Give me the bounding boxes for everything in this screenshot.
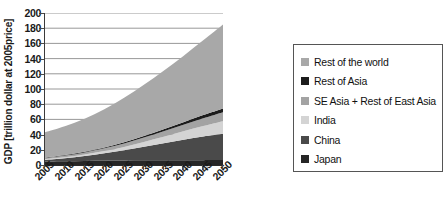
y-axis-tick-mark — [39, 119, 44, 120]
y-axis-tick-mark — [39, 104, 44, 105]
chart-legend: Rest of the worldRest of AsiaSE Asia + R… — [293, 44, 443, 172]
legend-item[interactable]: Rest of the world — [301, 52, 442, 72]
legend-swatch-icon — [301, 77, 309, 85]
stacked-area-chart: GDP [trillion dollar at 2005price] 02040… — [0, 0, 232, 216]
legend-item-label: Rest of the world — [314, 56, 389, 68]
plot-svg — [45, 13, 223, 165]
legend-swatch-icon — [301, 136, 309, 144]
x-axis-tick-mark — [202, 165, 203, 170]
legend-item[interactable]: Japan — [301, 150, 442, 170]
legend-item-label: Rest of Asia — [314, 75, 367, 87]
chart-screenshot: GDP [trillion dollar at 2005price] 02040… — [0, 0, 448, 216]
x-axis-tick-labels: 2005201020152020202520302035204020452050 — [0, 170, 232, 216]
x-axis-tick-mark — [143, 165, 144, 170]
x-axis-tick-mark — [182, 165, 183, 170]
y-axis-tick-mark — [39, 89, 44, 90]
x-axis-tick-mark — [163, 165, 164, 170]
legend-item-label: SE Asia + Rest of East Asia — [314, 95, 436, 107]
y-axis-tick-mark — [39, 59, 44, 60]
legend-item[interactable]: India — [301, 111, 442, 131]
legend-item-label: India — [314, 114, 336, 126]
legend-item[interactable]: SE Asia + Rest of East Asia — [301, 91, 442, 111]
legend-swatch-icon — [301, 58, 309, 66]
x-axis-tick-mark — [123, 165, 124, 170]
x-axis-tick-mark — [103, 165, 104, 170]
legend-swatch-icon — [301, 116, 309, 124]
y-axis-title-text: GDP [trillion dollar at 2005price] — [4, 18, 15, 163]
legend-item[interactable]: China — [301, 130, 442, 150]
y-axis-tick-labels: 020406080100120140160180200 — [17, 8, 41, 173]
legend-swatch-icon — [301, 97, 309, 105]
plot-area — [44, 13, 223, 166]
legend-item[interactable]: Rest of Asia — [301, 72, 442, 92]
x-axis-tick-mark — [64, 165, 65, 170]
y-axis-tick-mark — [39, 150, 44, 151]
legend-item-label: Japan — [314, 153, 341, 165]
x-axis-tick-mark — [222, 165, 223, 170]
legend-item-label: China — [314, 134, 340, 146]
y-axis-tick-mark — [39, 43, 44, 44]
x-axis-tick-mark — [44, 165, 45, 170]
x-axis-tick-mark — [84, 165, 85, 170]
y-axis-tick-mark — [39, 74, 44, 75]
y-axis-tick-mark — [39, 135, 44, 136]
legend-swatch-icon — [301, 155, 309, 163]
y-axis-tick-mark — [39, 13, 44, 14]
y-axis-tick-mark — [39, 28, 44, 29]
y-axis-title: GDP [trillion dollar at 2005price] — [0, 0, 18, 182]
